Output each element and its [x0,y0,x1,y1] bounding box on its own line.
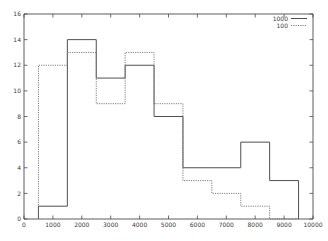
legend-label-100: 100 [277,22,289,29]
x-tick-label: 3000 [103,221,118,228]
y-tick-label: 2 [17,190,21,197]
y-tick-label: 6 [17,138,21,145]
y-tick-label: 0 [17,215,21,222]
x-tick-label: 1000 [45,221,60,228]
y-tick-label: 10 [13,87,21,94]
x-tick-label: 10000 [303,221,322,228]
y-tick-label: 16 [13,10,21,17]
x-tick-label: 7000 [219,221,234,228]
y-tick-label: 12 [13,61,21,68]
y-tick-label: 14 [13,36,21,43]
x-tick-label: 0 [22,221,26,228]
y-tick-label: 8 [17,113,21,120]
x-tick-label: 4000 [132,221,147,228]
x-tick-label: 6000 [190,221,205,228]
histogram-figure: 0246810121416 01000200030004000500060007… [0,0,328,241]
x-tick-label: 2000 [74,221,89,228]
x-tick-label: 9000 [276,221,291,228]
legend: 1000 100 [273,15,307,29]
x-tick-label: 5000 [161,221,176,228]
y-tick-label: 4 [17,164,21,171]
legend-label-1000: 1000 [273,15,288,22]
x-tick-label: 8000 [248,221,263,228]
series-line-1000 [38,40,298,219]
chart-canvas: 0246810121416 01000200030004000500060007… [0,0,328,241]
data-series-layer [38,40,298,219]
series-line-100 [38,52,298,219]
